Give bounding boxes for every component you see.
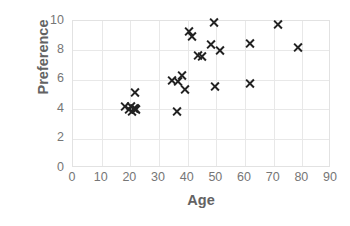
x-tick-label: 20: [114, 170, 144, 185]
gridline-vertical: [130, 21, 131, 166]
gridline-horizontal: [73, 139, 329, 140]
y-tick-label: 2: [36, 130, 64, 145]
x-tick-label: 60: [229, 170, 259, 185]
gridline-horizontal: [73, 109, 329, 110]
gridline-vertical: [302, 21, 303, 166]
gridline-vertical: [159, 21, 160, 166]
gridline-vertical: [188, 21, 189, 166]
plot-area: [72, 20, 330, 167]
scatter-chart-figure: 01020304050607080900246810 Age Preferenc…: [0, 0, 350, 226]
x-tick-label: 90: [315, 170, 345, 185]
x-axis-title: Age: [72, 192, 330, 208]
x-tick-label: 50: [200, 170, 230, 185]
x-tick-label: 80: [286, 170, 316, 185]
gridline-vertical: [274, 21, 275, 166]
x-tick-label: 30: [143, 170, 173, 185]
gridline-vertical: [245, 21, 246, 166]
x-tick-label: 70: [258, 170, 288, 185]
gridline-vertical: [216, 21, 217, 166]
x-tick-label: 10: [86, 170, 116, 185]
gridline-horizontal: [73, 80, 329, 81]
y-tick-label: 0: [36, 160, 64, 175]
y-axis-title: Preference: [35, 0, 51, 132]
x-tick-label: 40: [172, 170, 202, 185]
gridline-horizontal: [73, 50, 329, 51]
gridline-vertical: [102, 21, 103, 166]
